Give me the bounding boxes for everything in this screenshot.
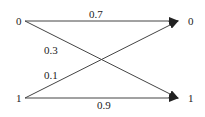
input-node-0: 0 — [16, 15, 22, 27]
channel-diagram: 0 1 0 1 0.7 0.3 0.1 0.9 — [0, 0, 205, 117]
output-node-1: 1 — [188, 92, 194, 104]
edge-label-1-to-1: 0.9 — [97, 99, 111, 111]
edge-label-0-to-0: 0.7 — [89, 8, 103, 20]
edge-label-1-to-0: 0.1 — [44, 69, 58, 81]
edge-label-0-to-1: 0.3 — [44, 44, 58, 56]
output-node-0: 0 — [188, 15, 194, 27]
input-node-1: 1 — [16, 92, 22, 104]
